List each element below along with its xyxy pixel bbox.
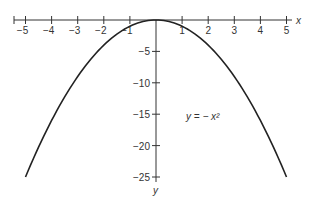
- y-tick-label: −5: [139, 46, 151, 57]
- x-tick-label: 4: [258, 25, 264, 36]
- x-axis-label: x: [295, 15, 302, 26]
- parabola-chart: −5−4−3−2−112345−5−10−15−20−25 y = − x² x…: [0, 0, 319, 204]
- y-tick-label: −25: [133, 172, 150, 183]
- x-tick-label: −3: [69, 25, 81, 36]
- x-tick-label: 3: [232, 25, 238, 36]
- x-tick-label: 5: [284, 25, 290, 36]
- tick-labels: −5−4−3−2−112345−5−10−15−20−25: [17, 25, 290, 183]
- y-tick-label: −15: [133, 109, 150, 120]
- x-tick-label: −5: [17, 25, 29, 36]
- y-tick-label: −20: [133, 141, 150, 152]
- equation-annotation: y = − x²: [185, 111, 220, 122]
- x-tick-label: −4: [43, 25, 55, 36]
- y-tick-label: −10: [133, 78, 150, 89]
- y-axis-label: y: [152, 185, 159, 196]
- x-tick-label: −2: [95, 25, 107, 36]
- ticks: [14, 16, 287, 177]
- x-tick-label: 2: [205, 25, 211, 36]
